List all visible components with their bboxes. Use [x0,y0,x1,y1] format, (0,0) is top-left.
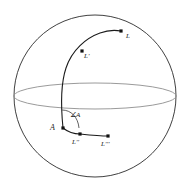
point-label-A: A [50,124,55,132]
point-label-L-triple-prime: L''' [101,141,109,148]
point-marker-L-double-prime [78,132,81,135]
diagram-canvas [0,0,191,193]
point-marker-A [61,126,64,129]
point-label-L-double-prime: L'' [72,139,79,146]
sphere-outline [14,15,176,177]
point-marker-L-triple-prime [106,134,109,137]
equator-ellipse [14,83,176,109]
point-label-L: L [126,33,130,40]
point-marker-L [119,29,122,32]
point-label-L-prime: L' [84,53,89,60]
angle-label-A: ∠A [70,112,80,119]
base-arc [63,128,108,136]
spherical-diagram: L L' A L'' L''' ∠A [0,0,191,193]
